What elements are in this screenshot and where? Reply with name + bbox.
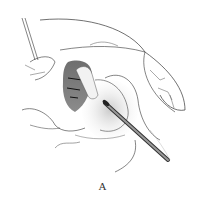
anatomy-illustration <box>0 0 205 203</box>
illustration-figure: A <box>0 0 205 203</box>
panel-label: A <box>0 180 205 192</box>
needle <box>22 18 35 60</box>
